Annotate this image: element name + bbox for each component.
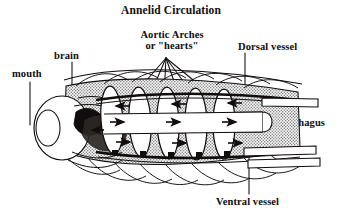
ventral-vessel-extension-upper	[244, 146, 316, 156]
ventral-vessel-extension-lower	[248, 158, 320, 168]
dorsal-vessel-extension	[262, 98, 318, 107]
anatomy-drawing	[0, 0, 342, 219]
mouth-opening	[36, 110, 60, 146]
esophagus-over-arches	[104, 112, 262, 134]
annelid-circulation-figure: Annelid Circulation Aortic Arches or "he…	[0, 0, 342, 219]
